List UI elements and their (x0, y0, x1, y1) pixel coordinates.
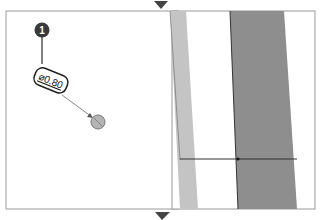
diagram-canvas: 1 ⌀0.80 (0, 0, 325, 220)
left-panel-frame (6, 11, 178, 209)
top-marker-triangle-icon (154, 1, 168, 9)
section-point (237, 158, 240, 161)
callout-number: 1 (39, 25, 45, 36)
diagram-stage: 1 ⌀0.80 (0, 0, 325, 220)
bottom-marker-triangle-icon (155, 212, 170, 220)
